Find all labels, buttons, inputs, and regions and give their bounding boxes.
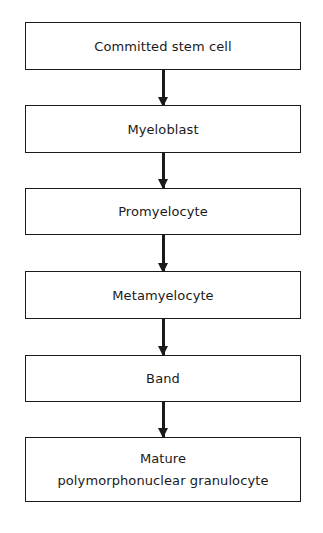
node-myeloblast: Myeloblast (25, 105, 301, 153)
node-metamyelocyte: Metamyelocyte (25, 271, 301, 319)
node-promyelocyte: Promyelocyte (25, 188, 301, 235)
node-band: Band (25, 355, 301, 402)
arrow-myeloblast-to-promyelocyte (162, 153, 165, 188)
node-label: Band (146, 370, 180, 387)
node-label: Metamyelocyte (112, 287, 213, 304)
arrow-stem-to-myeloblast (162, 70, 165, 106)
arrow-band-to-mature (162, 402, 165, 437)
node-label-line-1: Mature (140, 448, 186, 470)
node-label: Myeloblast (127, 121, 198, 138)
node-label: Committed stem cell (94, 38, 231, 55)
arrow-promyelocyte-to-metamyelocyte (162, 235, 165, 272)
node-label: Promyelocyte (118, 203, 208, 220)
node-mature-polymorphonuclear-granulocyte: Mature polymorphonuclear granulocyte (25, 437, 301, 502)
node-label-line-2: polymorphonuclear granulocyte (57, 470, 268, 492)
node-committed-stem-cell: Committed stem cell (25, 22, 301, 70)
arrow-metamyelocyte-to-band (162, 319, 165, 355)
